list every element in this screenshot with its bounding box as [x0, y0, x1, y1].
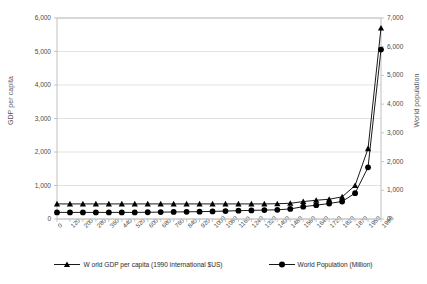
legend-item[interactable]: World Population (Million): [269, 260, 373, 269]
chart-container: GDP per capita World population 01,0002,…: [0, 0, 427, 284]
series-line: [57, 28, 381, 204]
circle-marker: [287, 206, 293, 212]
circle-marker: [93, 210, 99, 216]
legend-label: World Population (Million): [298, 261, 373, 268]
circle-marker: [106, 210, 112, 216]
circle-marker: [249, 207, 255, 213]
chart-legend: W orld GDP per capita (1990 internationa…: [0, 255, 427, 273]
circle-marker: [210, 208, 216, 214]
circle-marker: [236, 208, 242, 214]
circle-marker: [261, 207, 267, 213]
circle-marker: [365, 164, 371, 170]
circle-marker: [352, 190, 358, 196]
circle-marker: [67, 210, 73, 216]
circle-marker: [279, 261, 285, 267]
circle-marker: [313, 202, 319, 208]
circle-marker: [300, 204, 306, 210]
legend-item[interactable]: W orld GDP per capita (1990 internationa…: [54, 260, 222, 269]
circle-marker: [132, 210, 138, 216]
circle-marker: [145, 209, 151, 215]
circle-marker: [184, 209, 190, 215]
circle-marker: [326, 201, 332, 207]
circle-marker: [378, 47, 384, 53]
circle-marker: [54, 210, 60, 216]
plot-area: [0, 0, 427, 284]
gridlines: [57, 18, 381, 219]
triangle-marker: [378, 25, 384, 31]
circle-marker: [339, 199, 345, 205]
circle-marker: [119, 210, 125, 216]
circle-marker: [274, 207, 280, 213]
circle-marker: [158, 209, 164, 215]
legend-label: W orld GDP per capita (1990 internationa…: [83, 261, 222, 268]
legend-sample-circle-marker: [269, 260, 295, 269]
circle-marker: [223, 208, 229, 214]
circle-marker: [80, 210, 86, 216]
circle-marker: [197, 209, 203, 215]
circle-marker: [171, 209, 177, 215]
series-line: [57, 50, 381, 213]
legend-sample-triangle-marker: [54, 260, 80, 269]
data-series-layer: [54, 25, 384, 215]
